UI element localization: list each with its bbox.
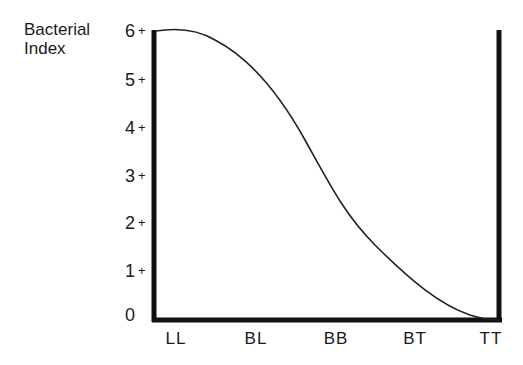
bacterial-index-curve xyxy=(156,29,499,320)
x-tick-TT: TT xyxy=(480,329,503,349)
x-tick-BT: BT xyxy=(403,329,427,349)
x-tick-BL: BL xyxy=(245,329,268,349)
x-tick-BB: BB xyxy=(324,329,349,349)
x-tick-LL: LL xyxy=(166,329,187,349)
plot-area xyxy=(0,0,523,365)
